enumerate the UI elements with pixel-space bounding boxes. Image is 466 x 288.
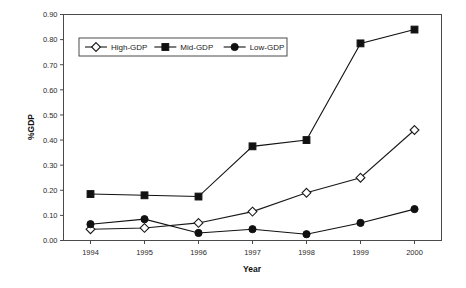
data-point-marker (87, 191, 94, 198)
x-axis-tick-label: 1996 (190, 248, 207, 257)
data-point-marker (195, 229, 202, 236)
legend-label: High-GDP (111, 43, 147, 52)
data-point-marker (357, 40, 364, 47)
legend-marker (231, 43, 238, 50)
y-axis-tick-label: 0.70 (43, 61, 58, 70)
data-point-marker (411, 26, 418, 33)
legend-label: Low-GDP (250, 43, 285, 52)
x-axis-tick-label: 1999 (352, 248, 369, 257)
x-axis-title: Year (243, 264, 262, 274)
y-axis-title: %GDP (26, 114, 36, 140)
y-axis: 0.000.100.200.300.400.500.600.700.800.90 (43, 10, 64, 245)
gdp-line-chart: 0.000.100.200.300.400.500.600.700.800.90… (0, 0, 466, 288)
x-axis-tick-label: 1998 (298, 248, 315, 257)
data-point-marker (87, 221, 94, 228)
y-axis-tick-label: 0.40 (43, 136, 58, 145)
chart-page: 0.000.100.200.300.400.500.600.700.800.90… (0, 0, 466, 288)
legend-label: Mid-GDP (180, 43, 213, 52)
data-point-marker (249, 143, 256, 150)
y-axis-tick-label: 0.50 (43, 111, 58, 120)
legend-marker (162, 44, 169, 51)
x-axis-tick-label: 1997 (244, 248, 261, 257)
x-axis: 1994199519961997199819992000 (82, 241, 423, 257)
y-axis-tick-label: 0.30 (43, 161, 58, 170)
data-point-marker (303, 231, 310, 238)
y-axis-tick-label: 0.20 (43, 186, 58, 195)
chart-legend: High-GDPMid-GDPLow-GDP (79, 38, 287, 56)
data-point-marker (141, 216, 148, 223)
y-axis-tick-label: 0.90 (43, 10, 58, 19)
data-point-marker (411, 206, 418, 213)
legend-item-mid-gdp: Mid-GDP (154, 43, 213, 52)
y-axis-tick-label: 0.00 (43, 236, 58, 245)
data-point-marker (141, 192, 148, 199)
data-point-marker (195, 193, 202, 200)
y-axis-tick-label: 0.10 (43, 211, 58, 220)
y-axis-tick-label: 0.60 (43, 86, 58, 95)
data-point-marker (303, 137, 310, 144)
data-point-marker (357, 219, 364, 226)
x-axis-tick-label: 2000 (406, 248, 423, 257)
data-point-marker (249, 226, 256, 233)
x-axis-tick-label: 1994 (82, 248, 99, 257)
x-axis-tick-label: 1995 (136, 248, 153, 257)
y-axis-tick-label: 0.80 (43, 35, 58, 44)
